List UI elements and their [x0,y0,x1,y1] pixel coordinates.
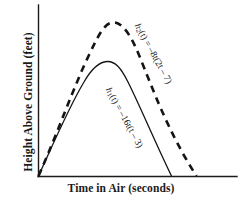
x-axis-title: Time in Air (seconds) [0,182,242,194]
projectile-height-chart: h2(t) = –8t(2t – 7) h1(t) = –16t(t – 3) … [0,0,242,200]
curve-h1-solid [39,61,172,176]
y-axis-title: Height Above Ground (feet) [22,22,34,182]
plot-area [0,0,242,200]
